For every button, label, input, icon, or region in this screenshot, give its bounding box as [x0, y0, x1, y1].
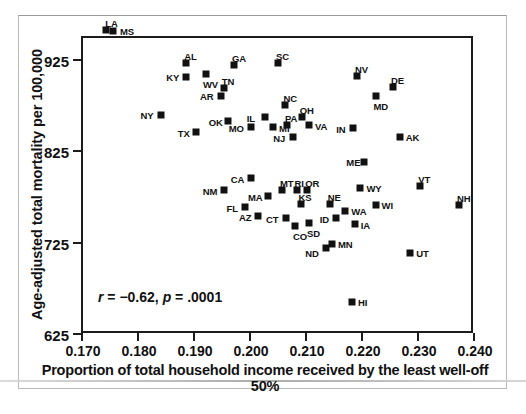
data-point-ia [351, 221, 358, 228]
point-label-nh: NH [457, 194, 471, 204]
x-tick-label-0.190: 0.190 [177, 343, 212, 359]
data-point-ar [218, 93, 225, 100]
point-label-ia: IA [361, 221, 370, 231]
data-point-in [350, 125, 357, 132]
point-label-ny: NY [141, 111, 154, 121]
x-tick-label-0.170: 0.170 [65, 343, 100, 359]
point-label-wv: WV [203, 80, 218, 90]
data-point-va [305, 121, 312, 128]
x-axis-label: Proportion of total household income rec… [30, 362, 500, 394]
x-tick-label-0.240: 0.240 [457, 343, 492, 359]
data-point-ut [407, 250, 414, 257]
point-label-nd: ND [305, 249, 319, 259]
point-label-ca: CA [231, 175, 245, 185]
data-point-nm [220, 186, 227, 193]
point-label-la: LA [105, 19, 117, 29]
data-point-nd [323, 245, 330, 252]
data-point-ny [157, 111, 164, 118]
point-label-va: VA [315, 122, 327, 132]
x-tick-label-0.220: 0.220 [345, 343, 380, 359]
data-point-md [372, 93, 379, 100]
point-label-mn: MN [338, 240, 353, 250]
point-label-or: OR [305, 179, 319, 189]
point-label-oh: OH [300, 106, 314, 116]
data-point-me [361, 159, 368, 166]
data-point-ak [396, 133, 403, 140]
point-label-al: AL [184, 52, 196, 62]
point-label-ma: MA [248, 193, 263, 203]
point-label-ct: CT [266, 215, 278, 225]
point-label-pa: PA [285, 114, 297, 124]
point-label-tn: TN [222, 77, 234, 87]
data-point-ct [282, 214, 289, 221]
point-label-id: ID [320, 215, 329, 225]
x-tick-0.170: 0.170 [81, 333, 83, 341]
data-point-ok [224, 117, 231, 124]
y-tick-725: 725 [73, 242, 81, 244]
point-label-nm: NM [203, 187, 218, 197]
x-tick-0.200: 0.200 [249, 333, 251, 341]
point-label-vt: VT [418, 175, 430, 185]
point-label-ri: RI [295, 179, 304, 189]
point-label-wi: WI [382, 201, 393, 211]
y-tick-825: 825 [73, 150, 81, 152]
point-label-ky: KY [166, 73, 179, 83]
point-label-hi: HI [358, 298, 367, 308]
annotation-p-value: = .0001 [171, 289, 222, 305]
point-label-nc: NC [283, 94, 297, 104]
x-tick-label-0.230: 0.230 [401, 343, 436, 359]
data-point-fl [241, 203, 248, 210]
point-label-co: CO [293, 232, 307, 242]
x-tick-label-0.200: 0.200 [233, 343, 268, 359]
point-label-sd: SD [307, 229, 320, 239]
point-label-mo: MO [229, 124, 244, 134]
point-label-ms: MS [120, 27, 134, 37]
x-tick-0.180: 0.180 [137, 333, 139, 341]
x-tick-label-0.180: 0.180 [121, 343, 156, 359]
annotation-p-symbol: p [163, 289, 172, 305]
data-point-co [291, 223, 298, 230]
data-point-ky [183, 74, 190, 81]
point-label-mt: MT [280, 179, 294, 189]
data-point-ca [247, 174, 254, 181]
point-label-ga: GA [232, 54, 246, 64]
data-point-wa [342, 208, 349, 215]
data-point-wy [357, 184, 364, 191]
x-tick-label-0.210: 0.210 [289, 343, 324, 359]
point-label-md: MD [374, 102, 389, 112]
data-point-wi [372, 202, 379, 209]
data-point-nj [290, 133, 297, 140]
point-label-ar: AR [200, 92, 214, 102]
annotation-r-value: = −0.62, [103, 289, 162, 305]
correlation-annotation: r = −0.62, p = .0001 [98, 289, 222, 305]
data-point-wv [202, 71, 209, 78]
data-point-il [261, 114, 268, 121]
data-point-mo [247, 124, 254, 131]
x-tick-0.190: 0.190 [193, 333, 195, 341]
data-point-az [254, 213, 261, 220]
point-label-me: ME [346, 158, 360, 168]
point-label-ut: UT [416, 249, 428, 259]
x-tick-0.230: 0.230 [417, 333, 419, 341]
point-label-wy: WY [366, 184, 381, 194]
data-point-sd [305, 220, 312, 227]
point-label-de: DE [391, 76, 404, 86]
point-label-tx: TX [178, 129, 190, 139]
point-label-fl: FL [227, 204, 238, 214]
data-point-ms [109, 28, 116, 35]
point-label-il: IL [247, 114, 255, 124]
data-point-hi [349, 298, 356, 305]
data-point-mi [270, 124, 277, 131]
y-tick-625: 625 [73, 333, 81, 335]
x-tick-0.240: 0.240 [473, 333, 475, 341]
point-label-sc: SC [276, 52, 289, 62]
point-label-ak: AK [406, 133, 420, 143]
point-label-az: AZ [239, 213, 251, 223]
point-label-wa: WA [351, 207, 366, 217]
x-tick-0.210: 0.210 [305, 333, 307, 341]
figure-scatter-plot: 925825725625 0.1700.1800.1900.2000.2100.… [0, 0, 526, 414]
point-label-ne: NE [328, 193, 341, 203]
y-axis-label: Age-adjusted total mortality per 100,000 [24, 36, 50, 333]
point-label-ks: KS [299, 193, 312, 203]
x-tick-0.220: 0.220 [361, 333, 363, 341]
